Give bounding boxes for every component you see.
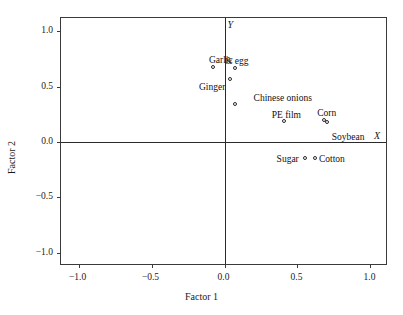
x-axis-title: Factor 1 bbox=[0, 291, 403, 302]
y-axis-letter: Y bbox=[228, 19, 234, 30]
y-tick bbox=[57, 87, 61, 88]
y-tick bbox=[57, 197, 61, 198]
data-point[interactable] bbox=[228, 77, 232, 81]
x-tick-label: 0.5 bbox=[291, 272, 303, 282]
data-point-label: Sugar bbox=[277, 155, 299, 165]
x-tick bbox=[225, 264, 226, 268]
data-point[interactable] bbox=[233, 66, 237, 70]
data-point-label: Soybean bbox=[332, 133, 365, 143]
data-point[interactable] bbox=[325, 120, 329, 124]
x-tick bbox=[297, 264, 298, 268]
plot-area: Garlic& eggGingerChinese onionsPE filmCo… bbox=[60, 17, 387, 265]
y-tick-label: 0.5 bbox=[20, 81, 53, 91]
data-point-label: Corn bbox=[317, 109, 336, 119]
y-tick-label: 0.0 bbox=[20, 136, 53, 146]
y-axis-title-text: Factor 2 bbox=[7, 141, 18, 174]
data-point-label: PE film bbox=[272, 111, 301, 121]
data-point-label: Ginger bbox=[199, 83, 225, 93]
x-tick bbox=[152, 264, 153, 268]
scatter-plot-figure: Factor 2 Garlic& eggGingerChinese onions… bbox=[0, 0, 403, 315]
x-tick-label: 0.0 bbox=[218, 272, 230, 282]
x-tick bbox=[370, 264, 371, 268]
y-tick-label: −0.5 bbox=[20, 191, 53, 201]
data-point-label: Cotton bbox=[319, 155, 345, 165]
y-axis-title: Factor 2 bbox=[4, 0, 20, 315]
data-point-label: & egg bbox=[225, 57, 248, 67]
x-axis-letter: X bbox=[374, 130, 380, 141]
y-tick bbox=[57, 253, 61, 254]
data-point[interactable] bbox=[303, 156, 307, 160]
data-point-label: Chinese onions bbox=[254, 94, 312, 104]
x-axis-title-text: Factor 1 bbox=[185, 291, 218, 302]
x-tick-label: −0.5 bbox=[142, 272, 159, 282]
x-tick-label: 1.0 bbox=[364, 272, 376, 282]
y-tick bbox=[57, 31, 61, 32]
y-tick bbox=[57, 142, 61, 143]
x-tick-label: −1.0 bbox=[69, 272, 86, 282]
data-point[interactable] bbox=[233, 102, 237, 106]
data-point[interactable] bbox=[313, 156, 317, 160]
y-tick-label: 1.0 bbox=[20, 25, 53, 35]
y-tick-label: −1.0 bbox=[20, 247, 53, 257]
x-tick bbox=[79, 264, 80, 268]
data-point[interactable] bbox=[211, 65, 215, 69]
